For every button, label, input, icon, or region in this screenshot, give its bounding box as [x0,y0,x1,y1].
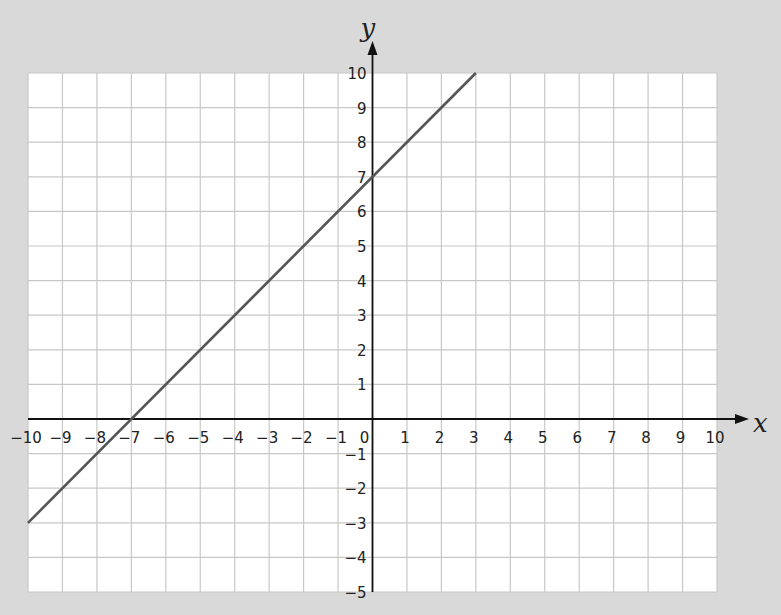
x-tick-label: −7 [118,429,140,447]
x-tick-label: 7 [607,429,617,447]
y-tick-label: −2 [344,480,366,498]
coordinate-graph: −10−9−8−7−6−5−4−3−2−1012345678910−5−4−3−… [0,0,781,615]
x-axis-label: x [753,408,768,438]
x-tick-label: 8 [641,429,651,447]
y-axis-label: y [360,13,376,43]
x-tick-label: −1 [325,429,347,447]
y-axis-arrow-icon [368,41,378,55]
y-tick-label: 1 [357,376,367,394]
x-axis-arrow-icon [735,414,749,424]
y-tick-label: −1 [344,446,366,464]
y-tick-label: 3 [357,307,367,325]
y-tick-label: −3 [344,515,366,533]
x-tick-label: 6 [572,429,582,447]
x-tick-label: −10 [10,429,42,447]
y-tick-label: 5 [357,238,367,256]
x-tick-label: 2 [435,429,445,447]
y-tick-label: 2 [357,342,367,360]
x-tick-label: 10 [705,429,724,447]
x-tick-label: −5 [187,429,209,447]
x-tick-label: 5 [538,429,548,447]
y-tick-label: −5 [344,584,366,602]
x-tick-label: 4 [504,429,514,447]
x-tick-label: −4 [222,429,244,447]
x-tick-label: 3 [469,429,479,447]
x-tick-label: −3 [256,429,278,447]
x-tick-label: 0 [360,429,370,447]
y-tick-label: 10 [347,65,366,83]
y-tick-label: 4 [357,273,367,291]
x-tick-label: −6 [153,429,175,447]
x-tick-label: −9 [49,429,71,447]
x-tick-label: 9 [676,429,686,447]
y-tick-label: 9 [357,100,367,118]
y-tick-label: 8 [357,134,367,152]
y-tick-label: 6 [357,203,367,221]
x-tick-label: −2 [291,429,313,447]
x-tick-label: 1 [400,429,410,447]
x-tick-label: −8 [84,429,106,447]
y-tick-label: −4 [344,549,366,567]
